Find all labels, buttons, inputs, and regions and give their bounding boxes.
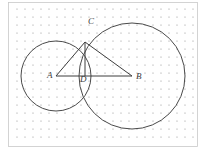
figure-canvas: A B C D [0,0,201,151]
point-label-a: A [46,70,53,80]
dot-grid-background [11,5,195,144]
point-label-b: B [136,71,142,81]
point-label-d: D [79,74,87,84]
geometry-figure: A B C D [0,0,201,151]
point-label-c: C [88,16,95,26]
